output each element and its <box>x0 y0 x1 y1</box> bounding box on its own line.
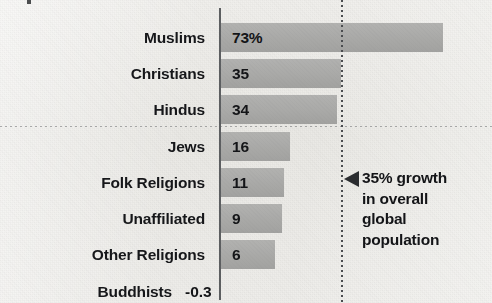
left-triangle-icon <box>344 171 359 187</box>
category-label-jews: Jews <box>168 139 205 155</box>
reference-line-35-percent <box>341 0 343 303</box>
bar-other-religions <box>221 240 275 269</box>
bar-value-christians: 35 <box>232 66 249 82</box>
bar-unaffiliated <box>221 204 282 233</box>
category-label-christians: Christians <box>131 66 205 82</box>
bar-value-folk-religions: 11 <box>232 175 248 191</box>
annotation-line-1: 35% growth <box>362 168 490 189</box>
category-label-hindus: Hindus <box>153 102 205 118</box>
annotation-callout: 35% growth in overall global population <box>362 168 490 250</box>
category-label-muslims: Muslims <box>144 30 205 46</box>
bar-value-jews: 16 <box>232 139 249 155</box>
clipped-title-descender <box>27 0 31 4</box>
bar-value-other-religions: 6 <box>232 247 240 263</box>
category-label-folk-religions: Folk Religions <box>101 175 205 191</box>
category-label-unaffiliated: Unaffiliated <box>122 211 205 227</box>
bar-value-buddhists: -0.3 <box>185 284 212 300</box>
category-label-other-religions: Other Religions <box>92 247 205 263</box>
bar-value-hindus: 34 <box>232 102 249 118</box>
chart-screenshot: Muslims 73% Christians 35 Hindus 34 Jews… <box>0 0 492 303</box>
annotation-line-3: global <box>362 209 490 230</box>
bar-folk-religions <box>221 168 284 197</box>
category-label-buddhists: Buddhists <box>98 284 172 300</box>
bar-chart: Muslims 73% Christians 35 Hindus 34 Jews… <box>0 0 492 303</box>
annotation-line-4: population <box>362 230 490 251</box>
horizontal-dotted-rule <box>0 126 492 127</box>
bar-value-unaffiliated: 9 <box>232 211 240 227</box>
annotation-line-2: in overall <box>362 189 490 210</box>
bar-value-muslims: 73% <box>232 30 262 46</box>
